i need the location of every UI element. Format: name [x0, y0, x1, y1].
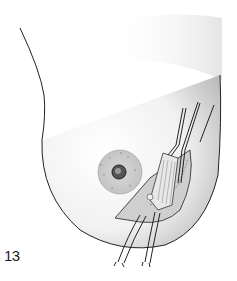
surgical-illustration	[0, 0, 237, 281]
chest-shading	[110, 14, 222, 80]
chest-outline	[20, 28, 45, 140]
figure-number: 13	[4, 247, 20, 264]
